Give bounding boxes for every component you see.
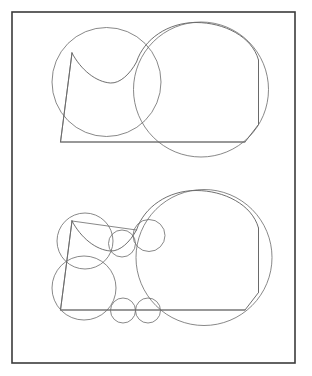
top-panel-chords — [61, 53, 259, 142]
large-right-inscribed-circle — [136, 190, 272, 326]
bottom-small-circle-right — [136, 298, 161, 323]
bottom-small-circle-left — [111, 298, 136, 323]
upper-left-diagonal-chord — [72, 221, 137, 230]
bottom-panel-circles — [52, 190, 272, 326]
top-panel — [52, 22, 269, 157]
top-panel-circles — [52, 22, 269, 157]
mid-small-circle-right — [133, 220, 165, 252]
bottom-panel-chords — [61, 221, 259, 310]
figure-page — [0, 0, 312, 376]
top-region-outline — [61, 23, 259, 143]
left-circle-chord — [61, 53, 73, 142]
bottom-region-outline — [61, 191, 259, 311]
upper-left-inscribed-circle — [57, 213, 113, 269]
figure-canvas — [0, 0, 312, 376]
left-edge-chord — [61, 221, 73, 310]
bottom-panel — [52, 190, 272, 326]
